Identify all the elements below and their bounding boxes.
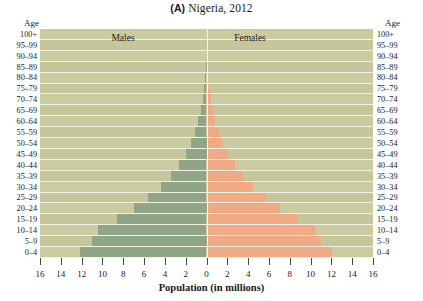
age-label-left-25-29: 25–29 [1, 193, 37, 202]
x-tick [123, 258, 124, 265]
bar-female-30-34 [207, 182, 254, 192]
bar-female-0-4 [207, 247, 333, 257]
age-label-right-60-64: 60–64 [377, 117, 417, 126]
population-pyramid-figure: (A) Nigeria, 2012 Age Age Males Females … [0, 0, 423, 301]
x-tick-label-14-15: 14 [341, 269, 363, 279]
age-label-right-90-94: 90–94 [377, 52, 417, 61]
x-tick-label-12-2: 12 [71, 269, 93, 279]
chart-title-text: Nigeria, 2012 [188, 2, 253, 14]
age-label-right-30-34: 30–34 [377, 183, 417, 192]
age-label-right-95-99: 95–99 [377, 41, 417, 50]
age-label-right-10-14: 10–14 [377, 226, 417, 235]
age-label-right-45-49: 45–49 [377, 150, 417, 159]
bar-male-0-4 [80, 247, 207, 257]
age-label-left-40-44: 40–44 [1, 161, 37, 170]
age-label-left-15-19: 15–19 [1, 215, 37, 224]
age-label-left-35-39: 35–39 [1, 172, 37, 181]
bar-male-25-29 [148, 193, 206, 203]
chart-title: (A) Nigeria, 2012 [0, 2, 423, 14]
bar-male-20-24 [134, 203, 207, 213]
age-label-right-85-89: 85–89 [377, 63, 417, 72]
bar-male-50-54 [191, 138, 207, 148]
bar-female-5-9 [207, 236, 321, 246]
x-tick [248, 258, 249, 265]
age-label-right-50-54: 50–54 [377, 139, 417, 148]
bar-male-60-64 [198, 116, 206, 126]
age-label-left-70-74: 70–74 [1, 95, 37, 104]
plot-area [40, 29, 373, 258]
legend-label-males: Males [83, 33, 163, 43]
x-tick-label-12-14: 12 [320, 269, 342, 279]
age-label-right-35-39: 35–39 [377, 172, 417, 181]
age-label-left-5-9: 5–9 [1, 237, 37, 246]
x-tick [227, 258, 228, 265]
x-tick [290, 258, 291, 265]
bar-female-25-29 [207, 193, 266, 203]
x-tick [40, 258, 41, 265]
bar-female-35-39 [207, 171, 243, 181]
x-tick-label-14-1: 14 [50, 269, 72, 279]
x-tick-label-6-11: 6 [258, 269, 280, 279]
age-label-left-95-99: 95–99 [1, 41, 37, 50]
x-tick [165, 258, 166, 265]
x-tick-label-8-4: 8 [112, 269, 134, 279]
age-label-right-65-69: 65–69 [377, 106, 417, 115]
bar-male-40-44 [179, 160, 206, 170]
x-tick-label-0-8: 0 [196, 269, 218, 279]
age-label-left-75-79: 75–79 [1, 84, 37, 93]
x-tick [311, 258, 312, 265]
age-axis-header-right: Age [385, 18, 400, 28]
legend-label-females: Females [210, 33, 290, 43]
x-tick-label-4-6: 4 [154, 269, 176, 279]
x-tick [373, 258, 374, 265]
age-label-right-75-79: 75–79 [377, 84, 417, 93]
x-tick [61, 258, 62, 265]
age-label-left-90-94: 90–94 [1, 52, 37, 61]
bar-male-55-59 [195, 127, 206, 137]
age-label-left-45-49: 45–49 [1, 150, 37, 159]
x-tick-label-8-12: 8 [279, 269, 301, 279]
age-label-left-0-4: 0–4 [1, 248, 37, 257]
age-label-right-0-4: 0–4 [377, 248, 417, 257]
age-label-left-80-84: 80–84 [1, 73, 37, 82]
bar-male-45-49 [186, 149, 207, 159]
x-tick-label-16-0: 16 [29, 269, 51, 279]
age-label-right-70-74: 70–74 [377, 95, 417, 104]
x-tick [207, 258, 208, 265]
bar-female-50-54 [207, 138, 224, 148]
age-label-left-30-34: 30–34 [1, 183, 37, 192]
panel-letter: (A) [170, 2, 185, 14]
x-tick [186, 258, 187, 265]
x-tick-label-10-13: 10 [300, 269, 322, 279]
age-label-left-20-24: 20–24 [1, 204, 37, 213]
bar-female-45-49 [207, 149, 229, 159]
bar-female-40-44 [207, 160, 235, 170]
bar-female-60-64 [207, 116, 216, 126]
x-tick [82, 258, 83, 265]
x-axis-title: Population (in millions) [0, 282, 423, 293]
x-axis-ticks [40, 258, 373, 269]
age-label-right-25-29: 25–29 [377, 193, 417, 202]
age-label-right-20-24: 20–24 [377, 204, 417, 213]
x-tick-label-4-10: 4 [237, 269, 259, 279]
age-label-left-85-89: 85–89 [1, 63, 37, 72]
age-label-right-55-59: 55–59 [377, 128, 417, 137]
age-label-right-80-84: 80–84 [377, 73, 417, 82]
age-label-right-15-19: 15–19 [377, 215, 417, 224]
age-label-right-100+: 100+ [377, 30, 417, 39]
bar-male-10-14 [98, 225, 206, 235]
x-tick [144, 258, 145, 265]
bar-male-30-34 [161, 182, 207, 192]
center-axis-line [207, 29, 208, 258]
x-tick-label-2-9: 2 [216, 269, 238, 279]
bar-male-15-19 [117, 214, 206, 224]
x-tick-label-6-5: 6 [133, 269, 155, 279]
age-label-left-65-69: 65–69 [1, 106, 37, 115]
x-tick-label-10-3: 10 [91, 269, 113, 279]
age-label-left-60-64: 60–64 [1, 117, 37, 126]
age-label-right-5-9: 5–9 [377, 237, 417, 246]
age-label-left-50-54: 50–54 [1, 139, 37, 148]
bar-male-5-9 [92, 236, 206, 246]
bar-female-20-24 [207, 203, 281, 213]
x-tick [331, 258, 332, 265]
